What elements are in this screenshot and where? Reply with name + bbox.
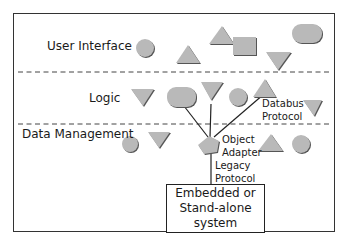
object-adapter-label: Object Adapter [222,133,262,159]
layer-label-logic: Logic [89,91,120,105]
system-box-line1: Embedded or [167,186,264,201]
embedded-system-box: Embedded or Stand-alone system [166,184,265,233]
legacy-protocol-label: Legacy Protocol [215,159,255,185]
system-box-line2: Stand-alone system [167,201,264,231]
layer-label-data-management: Data Management [22,127,134,141]
layer-label-user-interface: User Interface [47,39,132,53]
rounded-rect-shape-icon [292,24,323,44]
rounded-rect-shape-icon [167,87,197,108]
databus-protocol-label: Databus Protocol [262,97,304,123]
square-shape-icon [233,37,257,56]
